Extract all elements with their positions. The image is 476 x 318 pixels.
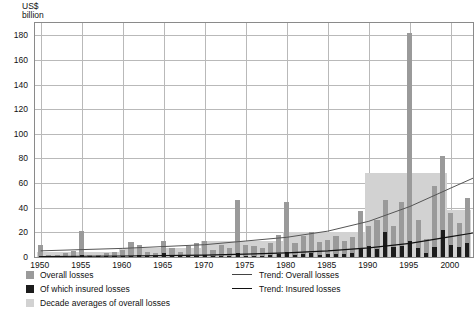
y-tick-label: 160: [0, 54, 28, 64]
y-tick-label: 40: [0, 202, 28, 212]
line-swatch-trend-insured-icon: [232, 288, 252, 289]
trend-line-overall: [41, 178, 473, 251]
legend-label-decade: Decade averages of overall losses: [40, 298, 170, 308]
chart-figure: US$ billion 020406080100120140160180 195…: [0, 0, 476, 318]
y-tick-label: 60: [0, 178, 28, 188]
legend-item-decade: Decade averages of overall losses: [26, 296, 170, 309]
legend-item-overall: Overall losses: [26, 268, 170, 281]
plot-inner: [35, 23, 473, 257]
swatch-overall-icon: [26, 271, 34, 279]
legend-label-trend-overall: Trend: Overall losses: [259, 270, 339, 280]
legend-right: Trend: Overall losses Trend: Insured los…: [232, 268, 340, 296]
y-tick-label: 120: [0, 104, 28, 114]
y-tick-label: 100: [0, 128, 28, 138]
line-swatch-trend-overall-icon: [232, 274, 252, 275]
legend-label-trend-insured: Trend: Insured losses: [259, 284, 340, 294]
y-axis-title-text: US$ billion: [22, 1, 44, 20]
x-tick-label: 1970: [194, 260, 213, 270]
legend-label-insured: Of which insured losses: [40, 284, 130, 294]
legend-label-overall: Overall losses: [40, 270, 93, 280]
y-axis-title: US$ billion: [22, 2, 62, 20]
y-tick-label: 140: [0, 79, 28, 89]
plot-area: [34, 22, 474, 258]
x-tick-label: 1995: [399, 260, 418, 270]
x-tick-label: 1990: [358, 260, 377, 270]
trend-lines: [35, 23, 473, 257]
y-tick-label: 80: [0, 153, 28, 163]
y-tick-label: 0: [0, 252, 28, 262]
x-tick-label: 2000: [440, 260, 459, 270]
legend-item-insured: Of which insured losses: [26, 282, 170, 295]
legend-item-trend-overall: Trend: Overall losses: [232, 268, 340, 281]
swatch-decade-icon: [26, 299, 34, 307]
y-tick-label: 20: [0, 227, 28, 237]
y-tick-label: 180: [0, 30, 28, 40]
legend-left: Overall losses Of which insured losses D…: [26, 268, 170, 310]
swatch-insured-icon: [26, 285, 34, 293]
trend-line-insured: [41, 233, 473, 257]
legend-item-trend-insured: Trend: Insured losses: [232, 282, 340, 295]
